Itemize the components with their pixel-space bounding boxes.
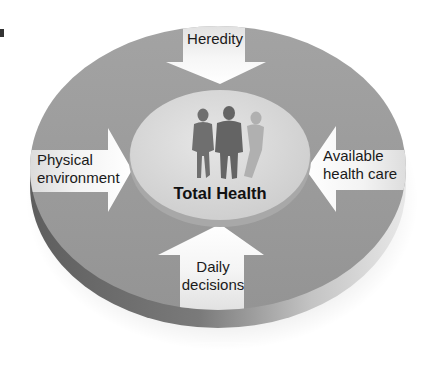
available-health-care-line-1: Available (323, 147, 397, 165)
available-health-care-label: Available health care (323, 147, 397, 183)
corner-mark (0, 29, 4, 37)
daily-decisions-line-1: Daily (175, 258, 251, 276)
heredity-text: Heredity (187, 30, 243, 47)
center-title: Total Health (170, 184, 270, 203)
physical-environment-label: Physical environment (37, 151, 120, 187)
daily-decisions-line-2: decisions (175, 276, 251, 294)
heredity-label: Heredity (184, 30, 246, 48)
physical-environment-line-1: Physical (37, 151, 120, 169)
daily-decisions-label: Daily decisions (175, 258, 251, 294)
physical-environment-line-2: environment (37, 169, 120, 187)
available-health-care-line-2: health care (323, 165, 397, 183)
